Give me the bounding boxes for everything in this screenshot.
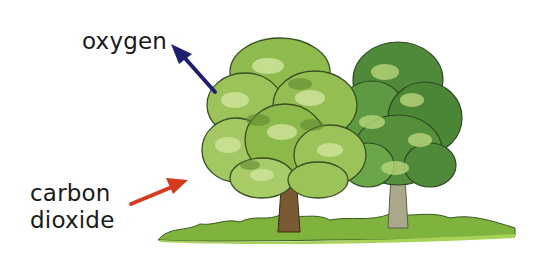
carbon-dioxide-label-line1: carbon [30, 180, 115, 207]
oxygen-arrow [171, 44, 215, 92]
carbon-dioxide-label: carbon dioxide [30, 180, 115, 234]
grass-strip [158, 214, 515, 244]
light-tree [202, 38, 366, 232]
oxygen-label: oxygen [82, 28, 167, 55]
carbon-dioxide-arrow [131, 178, 188, 204]
carbon-dioxide-label-line2: dioxide [30, 207, 115, 234]
